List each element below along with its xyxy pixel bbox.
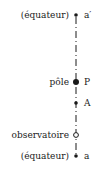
equator-top-label: (équateur) (21, 10, 69, 20)
pole-label: pôle (50, 77, 69, 87)
a-label: a (84, 151, 89, 161)
observatory-point-icon (74, 133, 79, 138)
observatory-label: observatoire (12, 130, 69, 140)
A-label: A (84, 98, 91, 108)
pole-point-icon (73, 79, 79, 85)
a-point-icon (74, 154, 78, 158)
P-label: P (84, 77, 90, 87)
a-prime-label: a′ (84, 10, 91, 20)
equator-bottom-label: (équateur) (21, 151, 69, 161)
A-point-icon (74, 101, 78, 105)
a-prime-point-icon (74, 13, 78, 17)
